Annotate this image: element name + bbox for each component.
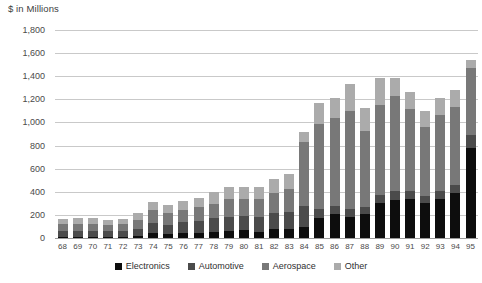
bar-segment-automotive (163, 225, 173, 234)
y-axis-tick-label: 1,200 (0, 94, 45, 104)
bar-segment-aerospace (178, 210, 188, 223)
bar-segment-other (299, 132, 309, 142)
bar-segment-automotive (239, 216, 249, 230)
x-axis-tick-label: 76 (176, 240, 191, 254)
bar-segment-electronics (254, 232, 264, 238)
stacked-bar (178, 201, 188, 238)
y-axis-tick-label: 400 (0, 187, 45, 197)
legend-item-aerospace[interactable]: Aerospace (262, 261, 316, 271)
stacked-bar (118, 219, 128, 238)
bar-segment-other (194, 198, 204, 207)
bar-segment-automotive (194, 221, 204, 233)
chart-legend: ElectronicsAutomotiveAerospaceOther (0, 261, 482, 271)
bar-column (387, 30, 402, 238)
bar-segment-aerospace (254, 199, 264, 217)
bar-column (297, 30, 312, 238)
x-axis-tick-label: 85 (312, 240, 327, 254)
bar-segment-electronics (224, 231, 234, 238)
stacked-bar (345, 84, 355, 238)
bar-segment-other (178, 201, 188, 210)
bar-segment-electronics (178, 233, 188, 238)
bar-segment-other (148, 202, 158, 211)
x-axis-tick-label: 71 (100, 240, 115, 254)
bar-segment-electronics (466, 148, 476, 238)
x-axis-tick-label: 84 (297, 240, 312, 254)
legend-swatch-icon (188, 263, 195, 270)
bar-segment-other (254, 187, 264, 199)
y-axis-tick-label: 1,400 (0, 71, 45, 81)
bar-segment-other (209, 192, 219, 204)
bar-segment-automotive (269, 213, 279, 229)
stacked-bar (133, 213, 143, 238)
stacked-bar (330, 98, 340, 238)
stacked-bar (390, 78, 400, 238)
bar-segment-automotive (390, 191, 400, 200)
bar-segment-automotive (360, 207, 370, 214)
y-axis-tick-label: 1,000 (0, 117, 45, 127)
bar-segment-electronics (420, 203, 430, 238)
stacked-bar (239, 187, 249, 238)
bar-segment-other (269, 179, 279, 193)
x-axis-tick-label: 73 (131, 240, 146, 254)
chart-axis-title: $ in Millions (8, 3, 59, 14)
bar-segment-aerospace (239, 199, 249, 216)
bar-segment-electronics (148, 233, 158, 238)
bar-segment-aerospace (269, 193, 279, 213)
bar-segment-electronics (435, 199, 445, 238)
bar-column (463, 30, 478, 238)
legend-label: Aerospace (273, 261, 316, 271)
bar-segment-aerospace (405, 109, 415, 191)
bar-segment-automotive (420, 196, 430, 203)
bar-segment-other (314, 103, 324, 124)
stacked-bar (405, 92, 415, 238)
bar-segment-electronics (103, 237, 113, 238)
bar-segment-aerospace (360, 131, 370, 207)
stacked-bar (450, 90, 460, 238)
stacked-bar (58, 219, 68, 238)
bar-segment-electronics (345, 217, 355, 238)
bar-segment-electronics (133, 236, 143, 238)
bar-segment-electronics (163, 234, 173, 238)
bar-segment-automotive (148, 223, 158, 233)
bar-column (221, 30, 236, 238)
bar-segment-aerospace (58, 224, 68, 231)
bar-segment-electronics (118, 237, 128, 238)
stacked-bar (88, 218, 98, 238)
bar-column (418, 30, 433, 238)
x-axis-tick-label: 77 (191, 240, 206, 254)
y-axis-tick-label: 1,600 (0, 48, 45, 58)
bar-segment-aerospace (224, 199, 234, 217)
bar-column (131, 30, 146, 238)
x-axis-tick-label: 95 (463, 240, 478, 254)
stacked-bar (420, 111, 430, 238)
bar-segment-other (375, 78, 385, 105)
bar-segment-electronics (390, 200, 400, 238)
bar-segment-electronics (194, 233, 204, 238)
bar-column (433, 30, 448, 238)
stacked-bar (435, 98, 445, 238)
bar-segment-automotive (178, 222, 188, 233)
legend-item-electronics[interactable]: Electronics (115, 261, 170, 271)
gridline-0 (55, 238, 478, 239)
bar-segment-electronics (269, 229, 279, 238)
bar-column (70, 30, 85, 238)
bar-segment-aerospace (209, 204, 219, 218)
bar-segment-automotive (330, 206, 340, 214)
x-axis-tick-label: 93 (433, 240, 448, 254)
bar-segment-other (405, 92, 415, 108)
bar-segment-automotive (209, 218, 219, 232)
x-axis-tick-label: 78 (206, 240, 221, 254)
bar-segment-automotive (450, 185, 460, 193)
x-axis-tick-label: 94 (448, 240, 463, 254)
legend-item-automotive[interactable]: Automotive (188, 261, 244, 271)
x-axis-tick-label: 88 (357, 240, 372, 254)
stacked-bar (254, 187, 264, 238)
legend-swatch-icon (262, 263, 269, 270)
bar-segment-automotive (405, 191, 415, 199)
bar-segment-other (360, 108, 370, 131)
legend-item-other[interactable]: Other (334, 261, 368, 271)
bar-column (403, 30, 418, 238)
x-axis-tick-label: 90 (387, 240, 402, 254)
bar-segment-other (239, 187, 249, 199)
bar-segment-aerospace (118, 224, 128, 231)
